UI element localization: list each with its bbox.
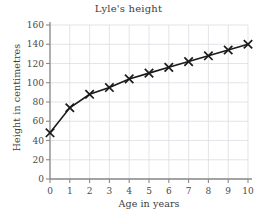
svg-text:10: 10 [242,186,254,196]
svg-text:80: 80 [33,97,45,107]
tick-labels: 020406080100120140160012345678910 [27,20,254,196]
plot-area: 020406080100120140160012345678910 [0,0,257,217]
svg-text:0: 0 [47,186,53,196]
svg-text:9: 9 [225,186,231,196]
svg-text:1: 1 [67,186,73,196]
svg-text:40: 40 [33,136,45,146]
svg-text:2: 2 [87,186,93,196]
svg-text:6: 6 [166,186,172,196]
svg-text:120: 120 [27,59,44,69]
svg-text:20: 20 [33,155,45,165]
svg-text:5: 5 [146,186,152,196]
svg-text:60: 60 [33,116,45,126]
chart-figure: Lyle's height Height in centimetres Age … [0,0,257,217]
svg-text:3: 3 [107,186,113,196]
svg-text:160: 160 [27,20,44,30]
svg-text:8: 8 [206,186,212,196]
svg-text:140: 140 [27,39,44,49]
svg-text:100: 100 [27,78,44,88]
svg-text:7: 7 [186,186,192,196]
svg-text:0: 0 [38,174,44,184]
svg-text:4: 4 [126,186,132,196]
